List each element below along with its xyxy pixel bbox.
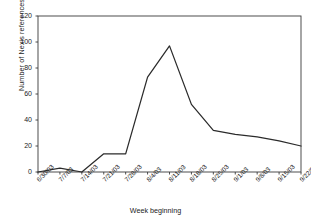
y-axis-tick-label: 20: [14, 142, 32, 149]
y-axis-tick-label: 80: [14, 64, 32, 71]
plot-frame: [38, 16, 301, 172]
line-chart-plot: [0, 0, 311, 222]
chart-container: Number of Nexis references Week beginnin…: [0, 0, 311, 222]
x-axis-title: Week beginning: [0, 206, 311, 215]
y-axis-tick-label: 0: [14, 168, 32, 175]
data-series-line: [38, 46, 301, 172]
y-axis-tick-label: 100: [14, 38, 32, 45]
y-axis-tick-label: 60: [14, 90, 32, 97]
y-axis-tick-label: 120: [14, 12, 32, 19]
y-axis-tick-label: 40: [14, 116, 32, 123]
